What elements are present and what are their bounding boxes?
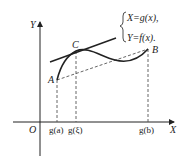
equation-x: X=g(x), <box>126 12 158 24</box>
origin-label: O <box>29 124 36 135</box>
brace-icon <box>120 12 126 42</box>
point-b-label: B <box>152 44 158 55</box>
y-axis-label: Y <box>30 19 37 30</box>
point-c-label: C <box>72 39 79 50</box>
x-axis-label: X <box>169 124 177 135</box>
tick-label-g-b: g(b) <box>139 125 154 135</box>
point-a-label: A <box>47 74 55 85</box>
cauchy-mean-value-diagram: X=g(x), Y=f(x). Y X O A C B g(a) g(ξ) g(… <box>0 0 183 158</box>
tick-label-g-xi: g(ξ) <box>68 125 83 135</box>
equation-y: Y=f(x). <box>127 32 156 44</box>
tick-label-g-a: g(a) <box>49 125 64 135</box>
